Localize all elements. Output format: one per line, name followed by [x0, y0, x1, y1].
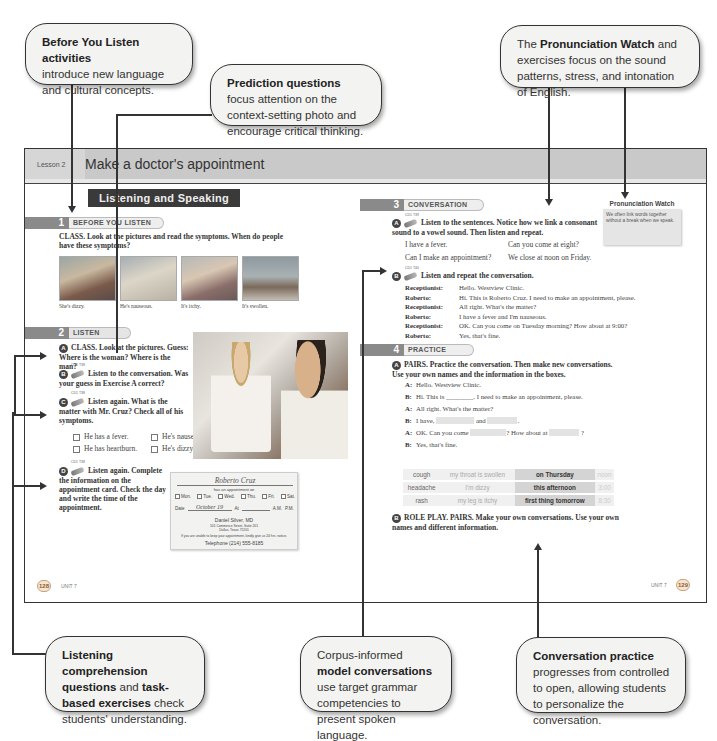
day-label: Fri.	[268, 494, 275, 499]
picture-caption: It's itchy.	[181, 303, 201, 309]
speaker: Receptionist:	[405, 283, 459, 293]
connector-line	[362, 270, 364, 638]
table-cell: this afternoon	[515, 482, 596, 493]
receptionist-figure	[211, 342, 271, 452]
day-checkbox[interactable]	[281, 494, 286, 499]
day-label: Sat.	[287, 494, 295, 499]
date-label: Date	[175, 506, 185, 511]
line-text: Yes, that's fine.	[416, 441, 457, 448]
callout-listening: Listening comprehension questions and ta…	[45, 636, 205, 712]
practice-line: B:Yes, that's fine.	[405, 441, 457, 448]
date-field[interactable]: October 19	[188, 504, 232, 511]
practice-info-table: cough my throat is swollen on Thursday n…	[403, 467, 614, 508]
section-1-header: 1 BEFORE YOU LISTEN	[25, 217, 164, 229]
line-text: All right. What's the matter?	[416, 405, 493, 412]
section-number: 3	[360, 199, 404, 211]
audio-cd-icon[interactable]	[71, 370, 85, 379]
symptom-checklist-row-1: He has a fever. He's nauseous.	[73, 432, 206, 441]
exercise-badge-a: A	[392, 219, 401, 228]
dialog-line: Receptionist:OK. Can you come on Tuesday…	[405, 321, 695, 331]
section-label: LISTEN	[69, 327, 131, 339]
day-label: Mon.	[181, 494, 191, 499]
connector-line	[116, 114, 118, 353]
callout-before-you-listen: Before You Listen activities introduce n…	[25, 23, 193, 85]
cd-track-label: CD1 T40	[405, 266, 419, 270]
audio-cd-icon[interactable]	[71, 398, 85, 407]
linked-sentence: Can I make an appointment?	[405, 253, 491, 262]
line-text: Hello. Westview Clinic.	[459, 283, 524, 293]
day-label: Wed.	[224, 494, 234, 499]
connector-line	[624, 88, 626, 194]
time-field[interactable]	[242, 506, 270, 511]
line-text: Yes, that's fine.	[459, 331, 500, 341]
dialog-line: Receptionist:Hello. Westview Clinic.	[405, 283, 695, 293]
day-label: Tue.	[203, 494, 212, 499]
speaker: A:	[405, 381, 416, 388]
line-text: Hi. This is	[416, 393, 444, 400]
checkbox-label: He's dizzy.	[162, 444, 195, 453]
symptom-blank-1[interactable]	[436, 417, 474, 424]
callout-text: introduce new language and cultural conc…	[42, 68, 164, 96]
table-row: cough my throat is swollen on Thursday n…	[403, 469, 614, 480]
line-text: . I need to make an appointment, please.	[473, 393, 582, 400]
checkbox[interactable]	[73, 434, 80, 441]
model-conversation: Receptionist:Hello. Westview Clinic. Rob…	[405, 283, 695, 340]
audio-cd-icon[interactable]	[71, 467, 85, 476]
connector-line	[14, 355, 16, 415]
day-checkbox[interactable]	[241, 494, 246, 499]
table-cell: I'm dizzy	[440, 482, 514, 493]
symptom-picture-swollen	[242, 256, 299, 301]
day-checkbox[interactable]	[262, 494, 267, 499]
speaker: Roberto:	[405, 293, 459, 303]
pronunciation-watch-title: Pronunciation Watch	[603, 200, 681, 207]
time-blank[interactable]	[549, 429, 579, 436]
audio-cd-icon[interactable]	[404, 272, 418, 281]
page-number-right: 129	[676, 579, 690, 591]
pronunciation-watch-text: We often link words together without a b…	[606, 212, 678, 224]
callout-corpus: Corpus-informed model conversations use …	[300, 636, 452, 712]
symptom-picture-nauseous	[120, 256, 177, 301]
audio-cd-icon[interactable]	[404, 219, 418, 228]
day-checkbox[interactable]	[175, 494, 180, 499]
table-row: headache I'm dizzy this afternoon 3:00	[403, 482, 614, 493]
arrow-down-icon	[621, 192, 629, 199]
table-cell: first thing tomorrow	[515, 495, 596, 506]
arrow-right-icon	[380, 267, 387, 275]
checkbox[interactable]	[151, 446, 158, 453]
day-blank[interactable]	[470, 429, 506, 436]
table-cell: 3:00	[595, 482, 614, 493]
exercise-4a: APAIRS. Practice the conversation. Then …	[392, 360, 622, 379]
arrow-down-icon	[68, 206, 76, 213]
dialog-line: Roberto:I have a fever and I'm nauseous.	[405, 312, 695, 322]
checkbox[interactable]	[151, 434, 158, 441]
day-checkboxes: Mon. Tue. Wed. Thu. Fri. Sat.	[175, 494, 295, 499]
speaker: Roberto:	[405, 312, 459, 322]
callout-bold: Prediction questions	[227, 77, 341, 89]
exercise-badge-b: B	[392, 272, 401, 281]
line-text: ? How about at	[506, 429, 547, 436]
callout-text: progresses from controlled to open, allo…	[533, 666, 669, 726]
symptom-blank-2[interactable]	[487, 417, 517, 424]
arrow-right-icon	[40, 352, 47, 360]
day-checkbox[interactable]	[197, 494, 202, 499]
connector-line	[548, 88, 550, 200]
section-number: 2	[25, 327, 69, 339]
patient-name: Roberto Cruz	[177, 476, 293, 486]
line-text: ?	[581, 429, 584, 436]
textbook-spread: Lesson 2 Make a doctor's appointment Lis…	[24, 148, 707, 603]
unit-label-left: UNIT 7	[61, 583, 77, 589]
checkbox[interactable]	[73, 446, 80, 453]
connector-line	[116, 114, 212, 116]
day-checkbox[interactable]	[218, 494, 223, 499]
callout-text: focus attention on the context-setting p…	[227, 93, 363, 137]
line-text: and	[476, 417, 486, 424]
name-blank[interactable]: ________	[446, 393, 473, 400]
checkbox-label: He has a fever.	[84, 432, 129, 441]
connector-line	[362, 270, 382, 272]
symptom-picture-dizzy	[59, 256, 116, 301]
line-text: Hello. Westview Clinic.	[416, 381, 481, 388]
practice-line: A:All right. What's the matter?	[405, 405, 493, 412]
table-cell: headache	[403, 482, 440, 493]
table-cell: noon	[595, 469, 614, 480]
callout-prediction: Prediction questions focus attention on …	[210, 64, 382, 126]
